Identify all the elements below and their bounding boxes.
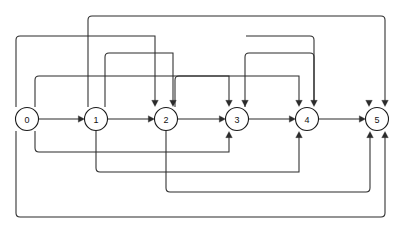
node-label-5: 5	[374, 115, 379, 125]
arrow-bottom-5-a	[367, 132, 374, 138]
graph-node-0[interactable]: 0	[16, 108, 39, 131]
arrow-top-3-b	[242, 100, 249, 106]
edge-2-4-top	[175, 76, 299, 107]
node-label-0: 0	[24, 115, 29, 125]
edge-0-2-top	[16, 36, 155, 107]
arrow-into-2	[148, 116, 154, 123]
graph-node-3[interactable]: 3	[226, 108, 249, 131]
edge-1-2-top	[105, 53, 173, 107]
edges-layer	[16, 16, 385, 217]
edge-0-3-bottom	[35, 131, 229, 152]
edge-3-5-top	[246, 36, 314, 101]
node-label-3: 3	[234, 115, 239, 125]
arrow-into-4	[289, 116, 295, 123]
arrow-top-4-b	[311, 100, 318, 106]
edge-0-5-bottom	[16, 131, 385, 217]
arrow-bottom-5-b	[382, 132, 389, 138]
node-label-1: 1	[93, 115, 98, 125]
arrow-top-2-a	[152, 100, 159, 106]
graph-node-5[interactable]: 5	[366, 108, 389, 131]
arrow-top-5-a	[366, 100, 373, 106]
arrow-bottom-3	[226, 132, 233, 138]
graph-node-2[interactable]: 2	[155, 108, 178, 131]
arrow-into-3	[219, 116, 225, 123]
arrow-into-5	[359, 116, 365, 123]
arrow-into-1	[78, 116, 84, 123]
arrow-top-5-b	[382, 100, 389, 106]
edge-2-5-bottom	[166, 131, 370, 192]
node-label-2: 2	[163, 115, 168, 125]
graph-diagram: 012345	[0, 0, 399, 233]
edge-0-3-top	[35, 76, 229, 107]
arrow-top-4-a	[296, 100, 303, 106]
graph-node-4[interactable]: 4	[296, 108, 319, 131]
edge-1-3-top	[88, 16, 385, 107]
edge-2-5-top	[245, 53, 314, 107]
diagram-canvas: 012345	[0, 0, 399, 233]
node-label-4: 4	[304, 115, 309, 125]
arrow-top-3-a	[226, 100, 233, 106]
arrow-bottom-4	[296, 132, 303, 138]
graph-node-1[interactable]: 1	[85, 108, 108, 131]
